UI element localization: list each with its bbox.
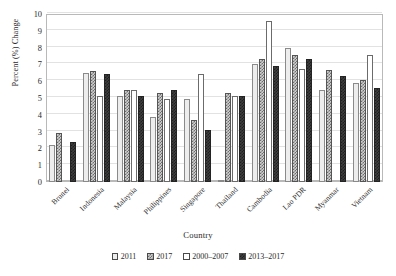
bar-groups — [46, 14, 383, 182]
x-axis-tick-label: Vietnam — [350, 185, 375, 210]
x-axis-tick-label: Thailand — [214, 185, 240, 211]
bar — [340, 76, 346, 182]
bar — [83, 73, 89, 182]
legend-swatch-icon — [112, 253, 119, 260]
bar — [49, 145, 55, 182]
bar-group — [349, 14, 383, 182]
bar — [171, 90, 177, 182]
bar — [326, 70, 332, 182]
x-axis-tick: Indonesia — [80, 183, 114, 229]
y-axis-tick-label: 10 — [34, 10, 42, 19]
x-axis-tick-label: Brunei — [49, 185, 70, 206]
x-axis-title: Country — [0, 230, 396, 240]
x-axis-tick-label: Malaysia — [112, 185, 139, 212]
bar-group — [147, 14, 181, 182]
x-axis-tick: Malaysia — [113, 183, 147, 229]
legend-item[interactable]: 2013–2017 — [239, 252, 284, 261]
bar-group — [215, 14, 249, 182]
legend-swatch-icon — [147, 253, 154, 260]
y-axis-tick-label: 7 — [38, 60, 42, 69]
y-axis-tick-label: 2 — [38, 144, 42, 153]
bar — [117, 96, 123, 182]
bar — [266, 21, 272, 182]
legend-label: 2011 — [121, 252, 137, 261]
x-axis-tick-label: Singapore — [178, 185, 207, 214]
bar-group — [181, 14, 215, 182]
y-axis-tick-label: 5 — [38, 94, 42, 103]
legend-swatch-icon — [183, 253, 190, 260]
bar — [273, 66, 279, 182]
x-axis-tick: Singapore — [181, 183, 215, 229]
bar — [131, 90, 137, 182]
legend-item[interactable]: 2011 — [112, 252, 137, 261]
bar — [97, 96, 103, 182]
y-axis-tick-label: 4 — [38, 110, 42, 119]
legend-label: 2000–2007 — [192, 252, 228, 261]
x-axis-tick: Vietnam — [349, 183, 383, 229]
bar — [138, 96, 144, 182]
bar-group — [80, 14, 114, 182]
y-axis-tick-label: 1 — [38, 161, 42, 170]
bar — [184, 99, 190, 182]
legend-item[interactable]: 2017 — [147, 252, 172, 261]
gridline — [47, 12, 382, 13]
y-axis-tick-label: 3 — [38, 127, 42, 136]
bar-group — [282, 14, 316, 182]
bar-group — [248, 14, 282, 182]
x-axis-tick: Philippines — [147, 183, 181, 229]
bar — [239, 96, 245, 182]
legend-label: 2013–2017 — [248, 252, 284, 261]
x-axis-tick: Cambodia — [248, 183, 282, 229]
x-axis-tick-label: Cambodia — [245, 185, 274, 214]
bar — [191, 120, 197, 182]
bar — [252, 64, 258, 182]
bar-chart: Percent (%) Change 012345678910 BruneiIn… — [0, 0, 396, 276]
x-axis-tick: Thailand — [215, 183, 249, 229]
bar — [232, 96, 238, 182]
bar — [319, 90, 325, 182]
bar — [360, 80, 366, 182]
bar — [299, 69, 305, 182]
bar — [205, 130, 211, 182]
bar — [56, 133, 62, 182]
x-axis-tick: Brunei — [46, 183, 80, 229]
x-axis-tick-label: Lao PDR — [280, 185, 307, 212]
x-axis-tick-label: Myanmar — [314, 185, 342, 213]
x-axis-tick: Lao PDR — [282, 183, 316, 229]
x-axis-tick-label: Indonesia — [77, 185, 105, 213]
bar — [150, 117, 156, 182]
bar — [218, 180, 224, 182]
bar — [306, 59, 312, 182]
legend-item[interactable]: 2000–2007 — [183, 252, 228, 261]
legend-swatch-icon — [239, 253, 246, 260]
x-axis-tick: Myanmar — [316, 183, 350, 229]
y-axis-title: Percent (%) Change — [11, 0, 20, 108]
bar — [164, 99, 170, 182]
bar — [292, 55, 298, 182]
x-axis-ticks: BruneiIndonesiaMalaysiaPhilippinesSingap… — [46, 183, 383, 229]
bar — [259, 59, 265, 182]
bar-group — [46, 14, 80, 182]
x-axis-tick-label: Philippines — [142, 185, 173, 216]
bar — [90, 71, 96, 182]
y-axis-tick-label: 0 — [38, 178, 42, 187]
y-axis-tick-label: 6 — [38, 77, 42, 86]
bar — [225, 93, 231, 182]
bar — [157, 93, 163, 182]
bar — [198, 74, 204, 182]
y-axis-tick-label: 9 — [38, 26, 42, 35]
bar-group — [316, 14, 350, 182]
bar — [374, 88, 380, 182]
bar — [285, 48, 291, 182]
bar — [353, 83, 359, 182]
chart-legend: 201120172000–20072013–2017 — [0, 252, 396, 261]
bar — [367, 55, 373, 182]
y-axis-tick-label: 8 — [38, 43, 42, 52]
legend-label: 2017 — [156, 252, 172, 261]
bar — [124, 90, 130, 182]
bar-group — [113, 14, 147, 182]
bar — [104, 74, 110, 182]
y-axis-ticks: 012345678910 — [22, 14, 42, 182]
bar — [70, 142, 76, 182]
